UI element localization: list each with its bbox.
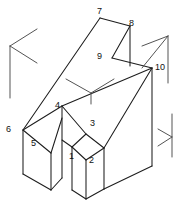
vertex-label-5: 5 [31, 139, 36, 148]
edge-slot-floor [62, 140, 72, 147]
solid-faces [23, 18, 152, 199]
axis-indicator-left-lower-arm [10, 46, 37, 63]
vertex-label-4: 4 [55, 101, 60, 110]
vertex-label-3: 3 [90, 119, 95, 128]
vertex-label-7: 7 [97, 7, 102, 16]
isometric-drawing-canvas [0, 0, 178, 206]
axis-indicator-lower-right-upper-arm [158, 129, 172, 137]
vertex-label-6: 6 [6, 125, 11, 134]
vertex-label-10: 10 [155, 63, 165, 72]
vertex-label-1: 1 [69, 152, 74, 161]
vertex-label-9: 9 [97, 52, 102, 61]
isometric-drawing-figure: 1 2 3 4 5 6 7 8 9 10 [0, 0, 178, 206]
vertex-label-2: 2 [89, 156, 94, 165]
vertex-label-8: 8 [129, 19, 134, 28]
axis-indicator-left-upper-arm [10, 29, 37, 46]
axis-indicator-lower-right-lower-arm [158, 137, 172, 146]
